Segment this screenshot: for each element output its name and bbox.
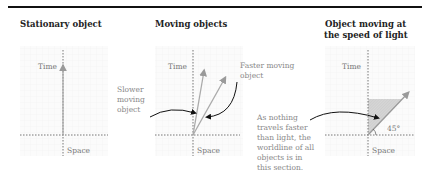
annotation-light-section: As nothing travels faster than light, th… <box>257 113 314 173</box>
spacetime-diagrams <box>0 0 427 183</box>
annotation-slower-moving: Slower moving object <box>117 85 145 115</box>
axis-label-time: Time <box>168 62 187 72</box>
axis-label-time: Time <box>342 62 361 72</box>
panel-light-speed <box>310 46 415 156</box>
annotation-faster-moving: Faster moving object <box>240 61 294 81</box>
axis-label-space: Space <box>197 146 220 156</box>
axis-label-space: Space <box>372 146 395 156</box>
axis-label-time: Time <box>38 62 57 72</box>
panel-stationary <box>20 46 108 156</box>
panel-moving <box>150 46 243 156</box>
angle-label: 45° <box>387 124 400 134</box>
axis-label-space: Space <box>67 146 90 156</box>
